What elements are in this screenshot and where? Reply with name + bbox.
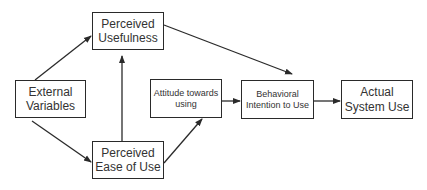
edge-usefulness-to-intention: [164, 25, 292, 74]
edge-external-to-ease: [32, 121, 91, 162]
node-behavioral-intention: Behavioral Intention to Use: [241, 80, 314, 119]
node-actual-system-use: Actual System Use: [341, 80, 413, 119]
node-external-variables: External Variables: [15, 80, 86, 118]
node-label-line2: Ease of Use: [95, 160, 160, 174]
node-label-line2: using: [154, 99, 219, 110]
node-perceived-ease-of-use: Perceived Ease of Use: [92, 141, 164, 179]
node-label-line1: Perceived: [95, 146, 160, 160]
node-label-line1: Behavioral: [246, 89, 309, 100]
node-perceived-usefulness: Perceived Usefulness: [92, 12, 164, 50]
node-label-line2: Variables: [26, 99, 75, 113]
node-label-line2: Intention to Use: [246, 100, 309, 111]
tam-diagram: Perceived Usefulness External Variables …: [0, 0, 427, 190]
node-label-line1: Perceived: [98, 17, 157, 31]
node-label-line2: System Use: [345, 100, 410, 114]
edge-ease-to-attitude: [164, 119, 202, 163]
edge-external-to-usefulness: [35, 36, 91, 80]
node-label-line1: External: [26, 85, 75, 99]
node-attitude-towards-using: Attitude towards using: [150, 79, 222, 118]
node-label-line1: Actual: [345, 85, 410, 99]
node-label-line1: Attitude towards: [154, 88, 219, 99]
node-label-line2: Usefulness: [98, 31, 157, 45]
